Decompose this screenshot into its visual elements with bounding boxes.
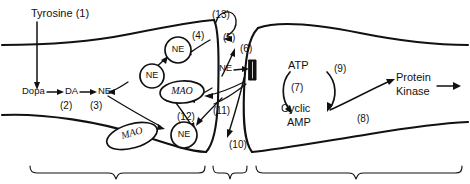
label-ne-cytoplasm: NE [98,86,111,96]
postsynaptic-upper-membrane [258,24,468,45]
brace-presynaptic [30,166,205,179]
kinase-output-arrowhead [453,82,461,90]
synapse-diagram: Tyrosine (1) Dopa DA NE (2) (3) (4) (13)… [0,0,470,184]
label-step-13: (13) [212,10,230,21]
label-step-11: (11) [213,106,230,117]
label-ne-cleft: NE [219,63,232,73]
label-step-8: (8) [357,114,369,125]
ne-to-mao-arrowhead [157,124,165,130]
brace-postsynaptic [256,166,462,179]
brace-cleft [213,166,247,179]
label-step-5: (5) [223,33,235,44]
label-dopa: Dopa [22,86,45,96]
vesicle-ne-upper-label: NE [166,45,190,54]
mao-upper-label: MAO [164,86,200,97]
label-step-6: (6) [240,44,252,55]
label-amp: AMP [287,117,311,129]
label-protein: Protein [396,72,431,84]
ne-to-mao-arrow [108,96,160,126]
dopa-to-da-arrowhead [57,89,64,95]
label-step-7: (7) [291,83,303,94]
label-step-2: (2) [60,101,72,112]
label-da: DA [65,86,78,96]
vesicle-ne-mid-label: NE [140,71,164,80]
camp-to-kinase-arrow [330,81,390,110]
label-step-3: (3) [90,101,102,112]
label-tyrosine: Tyrosine (1) [31,8,89,20]
vesicle-ne-lower-label: NE [172,130,196,139]
reuptake-arrow-11a [209,82,244,95]
label-step-4: (4) [192,31,204,42]
label-step-10: (10) [229,140,247,151]
presynaptic-terminal-wall [206,20,219,152]
label-step-12: (12) [177,112,195,123]
reuptake-arrowhead-11a [204,93,213,99]
exocytosis-arrowhead-5 [230,48,235,57]
da-to-ne-arrowhead [90,89,97,95]
label-step-9: (9) [334,64,346,75]
label-atp: ATP [288,60,309,72]
label-cyclic: Cyclic [281,103,310,115]
postsynaptic-lower-membrane [252,122,468,152]
diffusion-arrowhead-10 [227,129,233,138]
label-kinase: Kinase [396,86,430,98]
